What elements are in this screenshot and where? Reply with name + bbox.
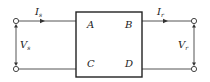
sending-current-arrow-icon bbox=[40, 19, 45, 23]
receiving-bottom-terminal bbox=[191, 66, 196, 71]
sending-voltage-label: Vs bbox=[20, 39, 30, 51]
receiving-voltage-arrow-icon bbox=[192, 24, 196, 66]
receiving-top-terminal bbox=[191, 18, 196, 23]
param-d-label: D bbox=[124, 58, 133, 69]
receiving-voltage-label: Vr bbox=[178, 39, 189, 51]
sending-current-label: Is bbox=[34, 6, 42, 18]
param-a-label: A bbox=[86, 19, 94, 30]
receiving-current-arrow-icon bbox=[163, 19, 168, 23]
sending-top-terminal bbox=[13, 18, 18, 23]
param-c-label: C bbox=[87, 58, 95, 69]
param-b-label: B bbox=[124, 19, 132, 30]
sending-bottom-terminal bbox=[13, 66, 18, 71]
receiving-current-label: Ir bbox=[156, 6, 165, 18]
two-port-diagram: A B C D Is Ir Vs Vr bbox=[0, 0, 210, 82]
sending-voltage-arrow-icon bbox=[14, 24, 18, 66]
